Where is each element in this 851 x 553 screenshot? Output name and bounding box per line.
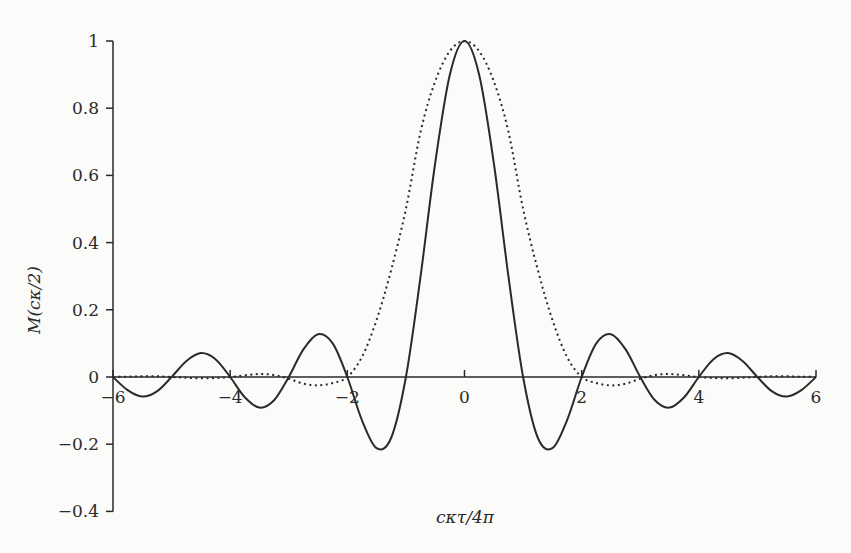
y-tick-label: 0.4 xyxy=(72,233,99,253)
x-tick-label: 6 xyxy=(811,387,822,407)
chart: −0.4−0.200.20.40.60.81 −6−4−20246 M(cκ/2… xyxy=(0,0,851,553)
x-tick-label: 4 xyxy=(693,387,704,407)
y-tick-label: 0.8 xyxy=(72,98,99,118)
y-tick-label: 1 xyxy=(88,31,99,51)
y-axis: −0.4−0.200.20.40.60.81 xyxy=(58,31,113,521)
dotted-series-line xyxy=(113,41,816,385)
x-axis-label: cκτ/4π xyxy=(436,507,495,527)
y-tick-label: −0.2 xyxy=(58,434,99,454)
x-tick-label: 0 xyxy=(459,387,470,407)
x-tick-label: −6 xyxy=(100,387,125,407)
y-tick-label: 0.6 xyxy=(72,165,99,185)
y-tick-label: 0 xyxy=(88,367,99,387)
y-tick-label: 0.2 xyxy=(72,300,99,320)
y-axis-label: M(cκ/2) xyxy=(24,266,44,335)
x-axis: −6−4−20246 xyxy=(100,370,821,407)
y-tick-label: −0.4 xyxy=(58,501,99,521)
